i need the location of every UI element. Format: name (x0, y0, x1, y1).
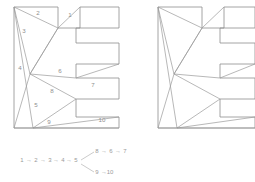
tree-node-n9: 9 (95, 169, 99, 175)
vertex-label-1: 1 (68, 11, 72, 18)
tree-node-n3: 3 (48, 157, 52, 163)
dual-tree-group: 12345867910 →→→→→→→ (20, 148, 127, 175)
vertex-label-2: 2 (36, 9, 40, 16)
vertex-label-4: 4 (18, 64, 22, 71)
vertex-label-6: 6 (58, 67, 62, 74)
left-polygon-group: 12345678910 (14, 7, 119, 128)
vertex-label-5: 5 (34, 101, 38, 108)
tree-arrow-a1: → (26, 157, 32, 163)
tree-node-n8: 8 (95, 148, 99, 154)
tree-node-n6: 6 (109, 148, 113, 154)
tree-branch-1 (81, 164, 94, 172)
tree-node-labels: 12345867910 (20, 148, 127, 175)
right-polygon-group (158, 7, 255, 128)
tree-branch-lines (81, 152, 94, 172)
tree-node-n7: 7 (123, 148, 127, 154)
vertex-label-8: 8 (50, 87, 54, 94)
tree-node-n10: 10 (107, 169, 114, 175)
figure-canvas: 12345678910 12345867910 →→→→→→→ (0, 0, 255, 182)
vertex-label-7: 7 (91, 81, 95, 88)
tree-arrow-a3: → (53, 157, 59, 163)
right-diagonal-1 (202, 7, 224, 28)
tree-node-n1: 1 (20, 157, 24, 163)
tree-node-n5: 5 (74, 157, 78, 163)
triangulation-figure: 12345678910 12345867910 →→→→→→→ (0, 0, 255, 182)
tree-node-n4: 4 (61, 157, 65, 163)
left-diagonal-8 (76, 64, 119, 78)
tree-arrow-a6: → (115, 148, 121, 154)
vertex-label-9: 9 (47, 118, 51, 125)
vertex-label-10: 10 (99, 116, 106, 123)
vertex-label-3: 3 (22, 27, 26, 34)
right-diagonal-8 (220, 64, 255, 78)
left-polygon-outline (14, 7, 119, 128)
tree-arrow-a7: → (101, 169, 107, 175)
tree-arrow-a2: → (40, 157, 46, 163)
tree-node-n2: 2 (34, 157, 38, 163)
tree-arrow-a5: → (101, 148, 107, 154)
tree-arrow-a4: → (66, 157, 72, 163)
tree-branch-0 (81, 152, 94, 160)
